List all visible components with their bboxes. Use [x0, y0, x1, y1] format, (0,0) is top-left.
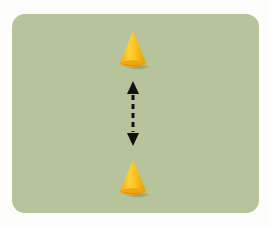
diagram-canvas: Two cones placed vertically with a dashe…: [0, 0, 269, 228]
diagram-art: [0, 0, 269, 228]
top-cone-icon: [120, 31, 152, 70]
double-arrow-icon: [127, 81, 139, 146]
bottom-cone-icon: [120, 160, 152, 198]
